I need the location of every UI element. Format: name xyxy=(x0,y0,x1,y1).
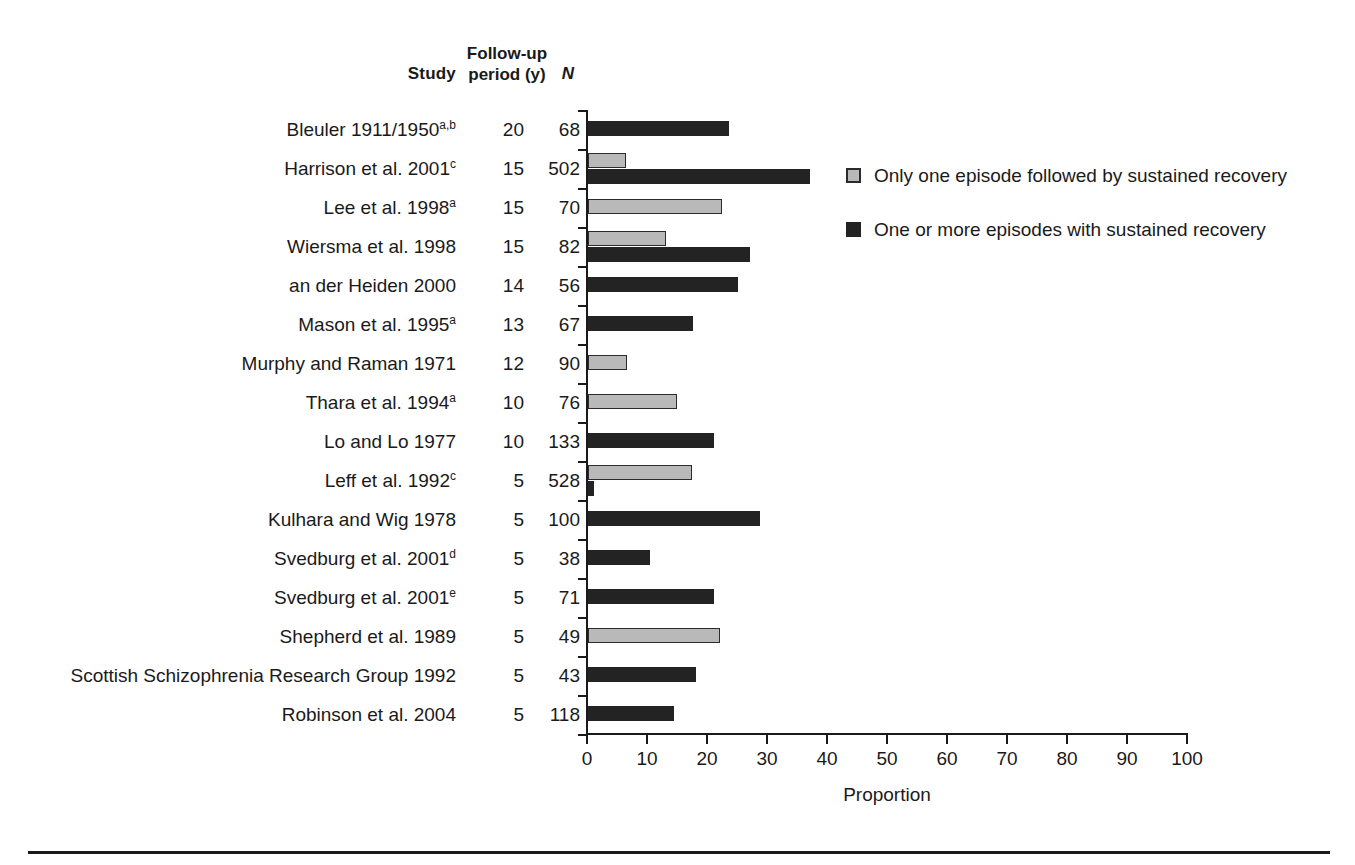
study-label: Harrison et al. 2001c xyxy=(20,149,456,188)
table-row: Thara et al. 1994a1076 xyxy=(0,383,582,422)
bar-light[interactable] xyxy=(588,231,666,246)
y-axis-tick xyxy=(578,539,586,541)
bar-light[interactable] xyxy=(588,465,692,480)
study-label: Robinson et al. 2004 xyxy=(20,695,456,734)
study-label: Svedburg et al. 2001d xyxy=(20,539,456,578)
followup-value: 15 xyxy=(462,227,524,266)
table-row: Mason et al. 1995a1367 xyxy=(0,305,582,344)
x-axis-tick-label: 40 xyxy=(797,748,857,770)
study-label: Thara et al. 1994a xyxy=(20,383,456,422)
column-header-study: Study xyxy=(180,64,456,84)
bar-dark[interactable] xyxy=(588,316,693,331)
column-header-followup-line1: Follow-up xyxy=(462,43,552,64)
x-axis-tick-label: 50 xyxy=(857,748,917,770)
bar-dark[interactable] xyxy=(588,667,696,682)
study-footnote-marker: e xyxy=(449,586,456,600)
followup-value: 5 xyxy=(462,617,524,656)
bar-dark[interactable] xyxy=(588,481,594,496)
x-axis-tick xyxy=(1006,735,1008,744)
followup-value: 20 xyxy=(462,110,524,149)
bar-dark[interactable] xyxy=(588,277,738,292)
bar-light[interactable] xyxy=(588,355,627,370)
study-label: Lo and Lo 1977 xyxy=(20,422,456,461)
bar-dark[interactable] xyxy=(588,433,714,448)
x-axis-tick xyxy=(766,735,768,744)
y-axis-tick xyxy=(578,305,586,307)
study-label: Shepherd et al. 1989 xyxy=(20,617,456,656)
x-axis-title: Proportion xyxy=(586,784,1188,806)
legend-swatch-dark-icon xyxy=(846,222,861,237)
x-axis-tick xyxy=(886,735,888,744)
x-axis-tick xyxy=(1126,735,1128,744)
column-header-n: N xyxy=(556,64,580,84)
bar-light[interactable] xyxy=(588,394,677,409)
followup-value: 5 xyxy=(462,695,524,734)
bar-dark[interactable] xyxy=(588,589,714,604)
study-footnote-marker: c xyxy=(450,157,456,171)
study-footnote-marker: a xyxy=(449,313,456,327)
study-footnote-marker: a xyxy=(449,391,456,405)
followup-value: 5 xyxy=(462,578,524,617)
n-value: 100 xyxy=(528,500,580,539)
study-label: Bleuler 1911/1950a,b xyxy=(20,110,456,149)
bar-dark[interactable] xyxy=(588,706,674,721)
n-value: 71 xyxy=(528,578,580,617)
bar-group xyxy=(588,344,1186,383)
n-value: 38 xyxy=(528,539,580,578)
followup-value: 15 xyxy=(462,188,524,227)
bar-light[interactable] xyxy=(588,153,626,168)
study-label: Wiersma et al. 1998 xyxy=(20,227,456,266)
x-axis-tick-label: 20 xyxy=(677,748,737,770)
bar-dark[interactable] xyxy=(588,247,750,262)
bar-group xyxy=(588,422,1186,461)
study-label: Murphy and Raman 1971 xyxy=(20,344,456,383)
x-axis-tick-label: 70 xyxy=(977,748,1037,770)
table-row: Murphy and Raman 19711290 xyxy=(0,344,582,383)
n-value: 118 xyxy=(528,695,580,734)
table-row: Wiersma et al. 19981582 xyxy=(0,227,582,266)
bar-group xyxy=(588,110,1186,149)
y-axis-tick xyxy=(578,617,586,619)
y-axis-tick xyxy=(578,188,586,190)
x-axis-tick-label: 10 xyxy=(617,748,677,770)
followup-value: 5 xyxy=(462,656,524,695)
study-label: Kulhara and Wig 1978 xyxy=(20,500,456,539)
study-footnote-marker: a,b xyxy=(439,118,456,132)
x-axis-tick-label: 30 xyxy=(737,748,797,770)
y-axis-tick xyxy=(578,227,586,229)
n-value: 43 xyxy=(528,656,580,695)
bar-group xyxy=(588,500,1186,539)
legend-label-dark: One or more episodes with sustained reco… xyxy=(874,219,1266,241)
bar-light[interactable] xyxy=(588,628,720,643)
followup-value: 15 xyxy=(462,149,524,188)
bar-dark[interactable] xyxy=(588,169,810,184)
bar-dark[interactable] xyxy=(588,511,760,526)
y-axis-tick xyxy=(578,266,586,268)
table-row: Harrison et al. 2001c15502 xyxy=(0,149,582,188)
legend-swatch-light-icon xyxy=(846,168,861,183)
x-axis-tick xyxy=(646,735,648,744)
bar-dark[interactable] xyxy=(588,121,729,136)
n-value: 67 xyxy=(528,305,580,344)
bar-dark[interactable] xyxy=(588,550,650,565)
column-header-followup-line2: period (y) xyxy=(462,64,552,85)
bar-light[interactable] xyxy=(588,199,722,214)
n-value: 68 xyxy=(528,110,580,149)
x-axis-tick xyxy=(706,735,708,744)
y-axis-tick xyxy=(578,383,586,385)
n-value: 502 xyxy=(528,149,580,188)
study-footnote-marker: d xyxy=(449,547,456,561)
table-row: Kulhara and Wig 19785100 xyxy=(0,500,582,539)
table-row: Lee et al. 1998a1570 xyxy=(0,188,582,227)
table-row: Svedburg et al. 2001d538 xyxy=(0,539,582,578)
bar-group xyxy=(588,578,1186,617)
study-label: Leff et al. 1992c xyxy=(20,461,456,500)
y-axis-tick xyxy=(578,695,586,697)
n-value: 76 xyxy=(528,383,580,422)
y-axis-tick xyxy=(578,344,586,346)
x-axis-tick xyxy=(946,735,948,744)
bar-group xyxy=(588,461,1186,500)
followup-value: 14 xyxy=(462,266,524,305)
followup-value: 12 xyxy=(462,344,524,383)
x-axis-tick xyxy=(826,735,828,744)
